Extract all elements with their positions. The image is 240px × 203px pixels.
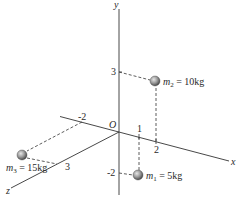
z-axis-label: z — [6, 186, 10, 196]
y-axis-label: y — [114, 0, 118, 10]
mass-m1-sphere — [133, 170, 143, 180]
mass-m3-sphere — [17, 150, 27, 160]
tick-x-neg2: -2 — [78, 112, 86, 122]
mass-m3-label: m3 = 15kg — [6, 163, 47, 175]
tick-x-1: 1 — [137, 124, 142, 134]
mass-m1-label: m1 = 5kg — [146, 171, 182, 183]
tick-x-2: 2 — [154, 145, 159, 155]
tick-y-3: 3 — [111, 67, 116, 77]
origin-label: O — [109, 120, 116, 130]
x-axis-label: x — [231, 157, 235, 167]
tick-z-3: 3 — [65, 162, 70, 172]
z-axis — [11, 132, 119, 188]
mass-m2-label: m2 = 10kg — [163, 77, 204, 89]
x-axis — [60, 117, 229, 162]
tick-y-neg2: -2 — [107, 168, 115, 178]
mass-m2-sphere — [150, 76, 160, 86]
